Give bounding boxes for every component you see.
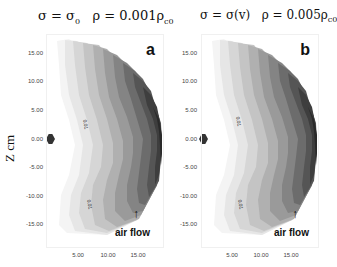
x-tick: 5.00 [66,252,90,258]
panel-b-title-sigma: σ = σ(v) [200,8,250,22]
y-tick: 15.00 [13,50,43,56]
airflow-arrow-icon: ↑ [133,207,139,221]
y-tick: -5.00 [13,164,43,170]
y-tick: 10.00 [13,78,43,84]
panel-b-airflow-label: air flow [274,227,309,238]
panel-b-label: b [300,41,310,59]
y-tick: 0.00 [167,136,197,142]
airflow-arrow-icon: ↑ [292,207,298,221]
panel-b-plot: 0.01 0.01 b ↑ air flow [201,34,319,248]
x-tick: 5.00 [220,252,244,258]
y-tick: -15.00 [13,221,43,227]
y-tick: -15.00 [167,221,197,227]
y-tick: -10.00 [13,193,43,199]
panel-b-title-rho: ρ = 0.005ρ [262,8,328,22]
y-tick: -10.00 [167,193,197,199]
y-tick: 10.00 [167,78,197,84]
panel-a-label: a [146,41,155,59]
panel-b-title: σ = σ(v) ρ = 0.005ρc0 [200,8,337,24]
y-tick: 0.00 [13,136,43,142]
y-tick: 15.00 [167,50,197,56]
x-tick: 10.00 [249,252,273,258]
panel-a-plot: 0.01 0.01 a ↑ air flow [46,34,164,248]
x-tick: 10.00 [96,252,120,258]
y-tick: -5.00 [167,164,197,170]
panel-a-contour-map: 0.01 0.01 [47,35,165,249]
panel-a-airflow-label: air flow [115,227,150,238]
y-tick: 5.00 [167,107,197,113]
y-tick: 5.00 [13,107,43,113]
panel-a-title-sigma: σ = σ [38,8,75,23]
panel-b-contour-map: 0.01 0.01 [202,35,320,249]
x-tick: 15.00 [126,252,150,258]
panel-a-title-rho: ρ = 0.001ρ [92,8,164,23]
panel-a-title: σ = σ0 ρ = 0.001ρc0 [38,8,174,26]
x-tick: 15.00 [279,252,303,258]
